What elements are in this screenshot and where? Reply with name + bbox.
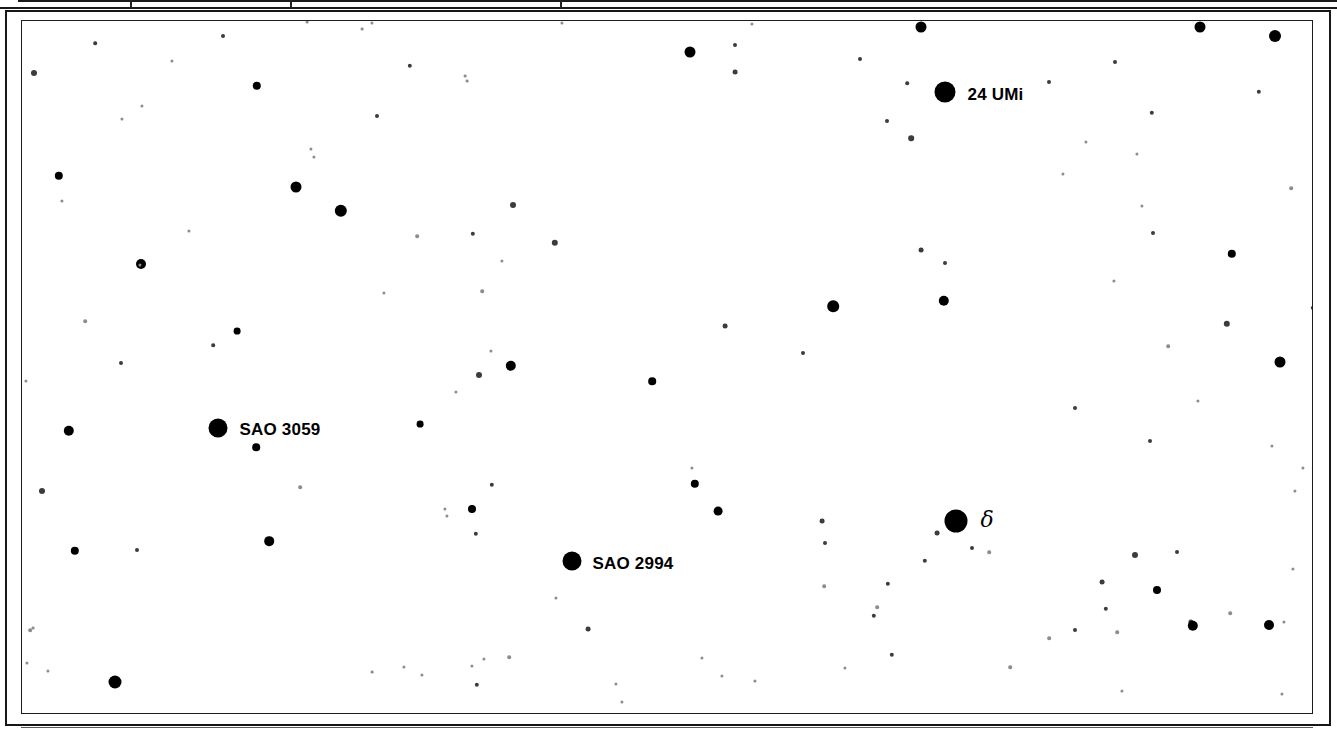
star-marker [211,343,215,347]
star-marker [753,679,756,682]
star-marker [919,248,924,253]
star-marker [886,582,890,586]
star-marker [475,683,479,687]
star-marker [480,289,484,293]
star-marker [55,172,63,180]
star-marker [875,605,879,609]
star-marker [1311,306,1313,310]
star-marker [843,666,846,669]
star-marker [312,155,315,158]
star-marker [253,82,261,90]
table-cell-divider [290,0,292,8]
star-marker [1264,620,1274,630]
star-marker [264,536,274,546]
star-marker [1150,111,1154,115]
star-label-24-umi: 24 UMi [968,86,1024,103]
star-chart-page: 24 UMiSAO 3059SAO 2994δ [0,0,1337,734]
star-marker [500,259,503,262]
star-marker [943,261,947,265]
star-marker [1228,250,1236,258]
star-marker [306,21,309,24]
star-marker [614,682,617,685]
star-marker [750,22,753,25]
star-marker [32,627,35,630]
star-marker [685,47,696,58]
star-marker [468,505,476,513]
labeled-star-marker [945,510,968,533]
star-marker [335,205,347,217]
star-marker [140,104,143,107]
star-marker [733,43,737,47]
star-marker [170,59,173,62]
labeled-star-marker [209,419,228,438]
star-marker [1140,204,1143,207]
star-marker [64,426,74,436]
star-marker [1115,630,1119,634]
star-marker [908,135,914,141]
star-marker [420,673,423,676]
star-marker [119,361,123,365]
star-marker [1289,186,1293,190]
star-marker [970,546,974,550]
star-label-sao-3059: SAO 3059 [240,421,321,438]
star-marker [71,547,79,555]
star-marker [733,70,738,75]
star-marker [417,421,424,428]
star-marker [690,466,693,469]
scan-edge-line [21,727,1313,728]
star-marker [1047,80,1051,84]
star-marker [46,669,49,672]
star-marker [1047,636,1051,640]
star-marker [507,655,511,659]
star-marker [445,514,448,517]
star-marker [923,559,927,563]
star-marker [620,700,623,703]
star-marker [1166,344,1170,348]
star-marker [25,661,28,664]
star-chart-frame: 24 UMiSAO 3059SAO 2994δ [21,20,1313,714]
star-marker [1195,22,1206,33]
star-marker [93,41,97,45]
star-field: 24 UMiSAO 3059SAO 2994δ [22,21,1312,713]
star-label-δ: δ [981,509,994,531]
star-marker [720,674,723,677]
star-marker [39,488,45,494]
star-marker [987,550,991,554]
star-marker [309,147,312,150]
star-marker [24,379,27,382]
star-marker [1291,567,1294,570]
star-marker [723,324,728,329]
star-marker [1228,611,1232,615]
star-marker [234,328,241,335]
star-marker [1301,466,1304,469]
star-marker [648,377,656,385]
star-marker [1188,621,1198,631]
star-marker [801,351,805,355]
star-marker [935,531,940,536]
star-marker [252,443,260,451]
star-marker [470,664,473,667]
scanned-table-strip [0,0,1337,9]
star-marker [714,507,723,516]
star-marker [1112,279,1115,282]
star-marker [822,584,826,588]
table-rule-top [18,0,1337,2]
star-marker [1270,444,1273,447]
star-marker [1100,580,1105,585]
star-marker [890,653,894,657]
labeled-star-marker [563,552,582,571]
star-marker [454,390,457,393]
star-marker [691,480,699,488]
star-marker [1196,399,1199,402]
star-marker [1257,90,1261,94]
star-marker [60,199,63,202]
star-marker [370,21,373,24]
star-marker [552,240,558,246]
star-marker [471,232,475,236]
star-marker [1113,60,1117,64]
star-marker [291,182,302,193]
star-marker [1151,231,1155,235]
star-marker [858,57,862,61]
star-marker [554,596,557,599]
star-marker [371,671,374,674]
